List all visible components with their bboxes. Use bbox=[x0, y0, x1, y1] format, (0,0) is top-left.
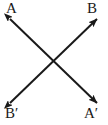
vertex-label-a-prime: A′ bbox=[84, 106, 98, 121]
arrow-lines-group bbox=[10, 19, 97, 103]
crossed-arrows-figure: A B B′ A′ bbox=[0, 0, 108, 125]
vertex-label-b-prime: B′ bbox=[5, 106, 18, 121]
vertex-label-a: A bbox=[6, 1, 17, 16]
vertex-label-b: B bbox=[87, 1, 97, 16]
